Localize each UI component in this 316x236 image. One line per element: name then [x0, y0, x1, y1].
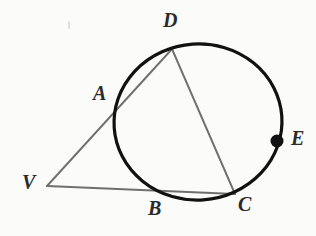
point-e-marker [271, 135, 284, 148]
geometry-figure: V A D B C E [0, 0, 316, 236]
segment-vd [47, 49, 172, 186]
segment-vc [47, 186, 235, 194]
label-v: V [22, 172, 35, 192]
label-c: C [238, 194, 251, 214]
segment-dc [172, 49, 235, 194]
label-a: A [93, 83, 106, 103]
label-e: E [291, 128, 304, 148]
scan-tick-mark [68, 21, 70, 29]
label-d: D [163, 10, 177, 30]
main-circle [109, 38, 287, 205]
label-b: B [148, 198, 161, 218]
